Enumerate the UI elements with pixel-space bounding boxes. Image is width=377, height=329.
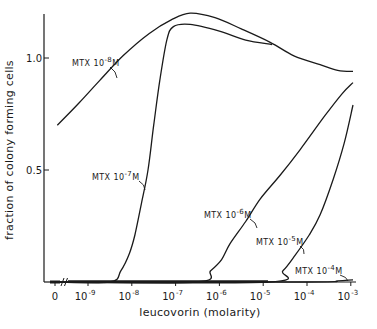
label-leader-line [250, 219, 257, 228]
x-tick-label: 10-3 [337, 289, 358, 302]
x-tick-label: 10-9 [75, 289, 96, 302]
curve-label: MTX 10-6M [204, 208, 252, 220]
y-axis-title: fraction of colony forming cells [3, 60, 16, 240]
x-tick-label: 10-8 [118, 289, 139, 302]
curves [55, 13, 353, 283]
curve-label: MTX 10-7M [92, 170, 140, 182]
x-tick-label: 10-4 [294, 289, 315, 302]
curve-mtx-1e-6 [55, 83, 353, 283]
curve-label: MTX 10-8M [72, 56, 120, 68]
x-tick-label: 10-5 [250, 289, 271, 302]
curve-label: MTX 10-4M [295, 264, 343, 276]
curve-label: MTX 10-5M [256, 235, 304, 247]
curve-mtx-1e-5 [55, 105, 353, 283]
x-tick-label: 0 [52, 291, 58, 302]
chart: 0.51.0010-910-810-710-610-510-410-3leuco… [0, 0, 377, 329]
x-axis-title: leucovorin (molarity) [139, 306, 260, 319]
y-tick-label: 0.5 [26, 165, 42, 176]
x-tick-label: 10-7 [162, 289, 183, 302]
curve-mtx-1e-8 [57, 13, 353, 125]
curve-labels: MTX 10-8MMTX 10-7MMTX 10-6MMTX 10-5MMTX … [72, 56, 348, 281]
y-tick-label: 1.0 [26, 53, 42, 64]
x-tick-label: 10-6 [206, 289, 227, 302]
